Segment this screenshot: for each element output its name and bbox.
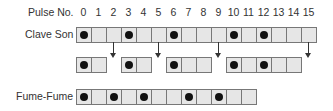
pulse-cell: [166, 89, 182, 105]
pulse-number: 4: [136, 6, 151, 18]
pulse-cell: [241, 89, 257, 105]
pulse-number: 7: [181, 6, 196, 18]
beat-dot-icon: [215, 93, 223, 101]
pulse-number: 6: [166, 6, 181, 18]
pulse-cell: [76, 57, 92, 73]
pulse-cell: [196, 57, 212, 73]
pulse-cell: [196, 89, 212, 105]
down-arrow-icon: [158, 42, 159, 54]
pulse-cell: [196, 27, 212, 43]
pulse-cell: [286, 57, 302, 73]
beat-dot-icon: [230, 31, 238, 39]
beat-dot-icon: [260, 61, 268, 69]
pulse-cell: [241, 57, 257, 73]
pulse-cell: [181, 57, 197, 73]
pulse-cell: [211, 89, 227, 105]
pulse-cell: [166, 27, 182, 43]
pulse-cell: [166, 57, 182, 73]
beat-dot-icon: [125, 31, 133, 39]
beat-dot-icon: [185, 93, 193, 101]
pulse-header-label: Pulse No.: [28, 6, 74, 18]
clave-son-label: Clave Son: [25, 28, 73, 40]
pulse-number: 5: [151, 6, 166, 18]
pulse-cell: [211, 27, 227, 43]
clave-son-row: [76, 27, 317, 43]
pulse-number: 3: [121, 6, 136, 18]
pulse-cell: [76, 27, 92, 43]
fume-fume-label: Fume-Fume: [16, 90, 73, 102]
pulse-number: 9: [211, 6, 226, 18]
pulse-cell: [271, 27, 287, 43]
clave-group: [121, 57, 152, 73]
beat-dot-icon: [230, 61, 238, 69]
pulse-cell: [301, 27, 317, 43]
pulse-cell: [226, 89, 242, 105]
beat-dot-icon: [140, 93, 148, 101]
beat-dot-icon: [125, 61, 133, 69]
beat-dot-icon: [170, 31, 178, 39]
pulse-cell: [91, 27, 107, 43]
down-arrow-icon: [113, 42, 114, 54]
pulse-cell: [136, 27, 152, 43]
beat-dot-icon: [80, 93, 88, 101]
pulse-cell: [286, 27, 302, 43]
down-arrow-icon: [308, 42, 309, 54]
beat-dot-icon: [260, 31, 268, 39]
pulse-cell: [136, 89, 152, 105]
beat-dot-icon: [80, 31, 88, 39]
pulse-cell: [226, 27, 242, 43]
clave-group: [226, 57, 302, 73]
pulse-cell: [106, 27, 122, 43]
pulse-cell: [106, 89, 122, 105]
clave-group: [76, 57, 107, 73]
pulse-number: 8: [196, 6, 211, 18]
pulse-number: 11: [241, 6, 256, 18]
pulse-number: 15: [301, 6, 316, 18]
pulse-cell: [256, 57, 272, 73]
pulse-cell: [241, 27, 257, 43]
pulse-cell: [121, 27, 137, 43]
pulse-cell: [136, 57, 152, 73]
pulse-cell: [121, 57, 137, 73]
beat-dot-icon: [80, 61, 88, 69]
pulse-cell: [91, 89, 107, 105]
clave-group: [166, 57, 212, 73]
pulse-cell: [271, 57, 287, 73]
pulse-cell: [226, 57, 242, 73]
pulse-number: 2: [106, 6, 121, 18]
pulse-number: 13: [271, 6, 286, 18]
beat-dot-icon: [110, 93, 118, 101]
pulse-cell: [121, 89, 137, 105]
pulse-cell: [181, 27, 197, 43]
pulse-number: 14: [286, 6, 301, 18]
beat-dot-icon: [170, 61, 178, 69]
pulse-cell: [151, 89, 167, 105]
pulse-number: 1: [91, 6, 106, 18]
pulse-number: 10: [226, 6, 241, 18]
pulse-number: 0: [76, 6, 91, 18]
pulse-cell: [91, 57, 107, 73]
pulse-cell: [181, 89, 197, 105]
pulse-cell: [76, 89, 92, 105]
pulse-cell: [151, 27, 167, 43]
pulse-number: 12: [256, 6, 271, 18]
down-arrow-icon: [218, 42, 219, 54]
fume-fume-row: [76, 89, 257, 105]
pulse-cell: [256, 27, 272, 43]
